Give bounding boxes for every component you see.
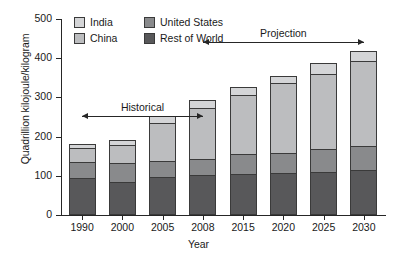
bar-segment-united-states xyxy=(310,149,337,173)
annotation-line xyxy=(82,116,203,117)
bar-segment-china xyxy=(149,123,176,162)
annotation-line xyxy=(203,42,364,43)
bar-segment-united-states xyxy=(350,146,377,171)
bar-segment-rest-of-world xyxy=(189,175,216,215)
bar-2030[interactable] xyxy=(350,51,377,215)
x-tick-label: 2015 xyxy=(220,221,266,233)
bar-1990[interactable] xyxy=(69,144,96,215)
y-tick-label: 0 xyxy=(12,209,52,219)
y-tick-label: 100 xyxy=(12,170,52,180)
x-tick-label: 2020 xyxy=(260,221,306,233)
bar-segment-china xyxy=(350,61,377,147)
y-tick-label: 400 xyxy=(12,52,52,62)
y-tick-label: 300 xyxy=(12,91,52,101)
legend-swatch-united-states xyxy=(144,17,155,28)
arrow-right-icon xyxy=(358,39,364,45)
bar-segment-rest-of-world xyxy=(310,172,337,215)
arrow-left-icon xyxy=(82,113,88,119)
bar-2020[interactable] xyxy=(270,76,297,215)
x-tick xyxy=(203,215,204,220)
stacked-bar-chart: Quadrillion kilojoule/kilogram Year 0100… xyxy=(0,0,397,257)
legend-swatch-india xyxy=(74,17,85,28)
x-tick xyxy=(122,215,123,220)
bar-segment-rest-of-world xyxy=(350,170,377,215)
annotation-label: Projection xyxy=(223,27,343,39)
legend-label-china: China xyxy=(90,32,117,44)
bar-segment-rest-of-world xyxy=(270,173,297,215)
bar-segment-united-states xyxy=(189,159,216,177)
bar-segment-china xyxy=(69,148,96,163)
bar-2000[interactable] xyxy=(109,140,136,215)
x-tick xyxy=(163,215,164,220)
bar-2025[interactable] xyxy=(310,63,337,215)
bar-segment-united-states xyxy=(69,162,96,178)
legend-item-united-states: United States xyxy=(144,16,223,28)
x-tick xyxy=(82,215,83,220)
bar-segment-united-states xyxy=(270,153,297,174)
y-tick-label: 200 xyxy=(12,131,52,141)
x-tick-label: 1990 xyxy=(59,221,105,233)
x-tick-label: 2005 xyxy=(140,221,186,233)
bar-segment-rest-of-world xyxy=(149,177,176,215)
bar-2015[interactable] xyxy=(230,87,257,215)
legend-row: India United States xyxy=(74,14,223,30)
annotation-label: Historical xyxy=(83,101,203,113)
bar-segment-rest-of-world xyxy=(230,174,257,215)
x-tick-label: 2000 xyxy=(99,221,145,233)
bar-segment-united-states xyxy=(149,161,176,179)
legend-label-united-states: United States xyxy=(160,16,223,28)
x-tick-label: 2008 xyxy=(180,221,226,233)
bar-segment-china xyxy=(230,95,257,155)
bar-segment-united-states xyxy=(109,163,136,182)
legend-item-india: India xyxy=(74,16,144,28)
bar-2005[interactable] xyxy=(149,116,176,215)
legend-swatch-rest-of-world xyxy=(144,33,155,44)
legend-row: China Rest of World xyxy=(74,30,223,46)
legend-item-china: China xyxy=(74,32,144,44)
x-tick-label: 2030 xyxy=(341,221,387,233)
bar-segment-rest-of-world xyxy=(109,182,136,215)
arrow-left-icon xyxy=(203,39,209,45)
y-tick-label: 500 xyxy=(12,13,52,23)
x-tick xyxy=(283,215,284,220)
x-axis-label: Year xyxy=(0,238,397,250)
x-tick-label: 2025 xyxy=(301,221,347,233)
x-axis-line xyxy=(61,215,386,216)
x-tick xyxy=(243,215,244,220)
bar-segment-china xyxy=(109,145,136,165)
x-tick xyxy=(324,215,325,220)
arrow-right-icon xyxy=(197,113,203,119)
y-tick xyxy=(56,215,62,216)
bar-2008[interactable] xyxy=(189,100,216,215)
bar-segment-rest-of-world xyxy=(69,178,96,215)
legend: India United States China Rest of World xyxy=(74,14,223,46)
bar-segment-china xyxy=(270,83,297,153)
legend-label-india: India xyxy=(90,16,113,28)
legend-swatch-china xyxy=(74,33,85,44)
bar-segment-china xyxy=(310,74,337,151)
x-tick xyxy=(364,215,365,220)
bar-segment-united-states xyxy=(230,154,257,175)
plot-area xyxy=(62,19,384,215)
